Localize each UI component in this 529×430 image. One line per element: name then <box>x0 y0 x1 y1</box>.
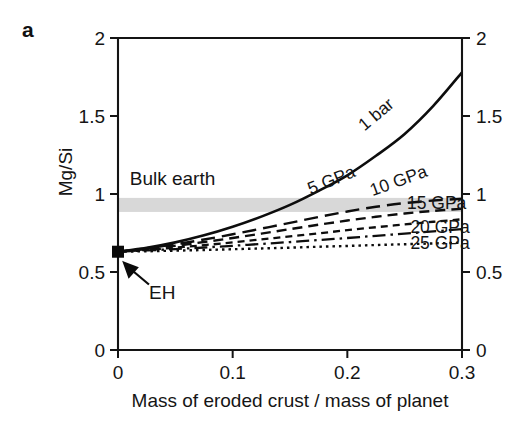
curve-label-5-gpa: 5 GPa <box>305 161 359 198</box>
eh-label: EH <box>149 282 175 303</box>
ytick-label-right: 1.5 <box>476 106 502 127</box>
bulk-earth-label: Bulk earth <box>130 168 216 189</box>
ytick-label-right: 0 <box>476 340 487 361</box>
ytick-label-right: 1 <box>476 184 487 205</box>
xtick-label: 0.2 <box>334 362 360 383</box>
y-axis-title: Mg/Si <box>55 148 76 197</box>
curve-labels-group: 1 bar5 GPa10 GPa15 GPa20 GPa25 GPa <box>305 94 470 253</box>
ytick-label-left: 0.5 <box>79 262 105 283</box>
panel-label: a <box>22 18 34 42</box>
ytick-label-left: 1.5 <box>79 106 105 127</box>
curve-label-15-gpa: 15 GPa <box>407 193 467 213</box>
eh-data-point <box>112 246 124 258</box>
ytick-label-right: 2 <box>476 28 487 49</box>
xtick-label: 0 <box>113 362 124 383</box>
xtick-label: 0.1 <box>219 362 245 383</box>
curve-label-1-bar: 1 bar <box>354 94 398 135</box>
x-axis-title: Mass of eroded crust / mass of planet <box>132 390 450 411</box>
ytick-label-left: 2 <box>94 28 105 49</box>
figure-panel: a Bulk earth 000.50.5111.51.52200.10.20.… <box>0 0 529 430</box>
curve-label-25-gpa: 25 GPa <box>410 233 470 253</box>
ytick-label-left: 0 <box>94 340 105 361</box>
mg-si-erosion-chart: Bulk earth 000.50.5111.51.52200.10.20.3 … <box>0 0 529 430</box>
eh-arrow-head <box>124 263 137 277</box>
ytick-label-left: 1 <box>94 184 105 205</box>
eh-marker-group: EH <box>112 246 175 303</box>
ytick-label-right: 0.5 <box>476 262 502 283</box>
xtick-label: 0.3 <box>449 362 475 383</box>
